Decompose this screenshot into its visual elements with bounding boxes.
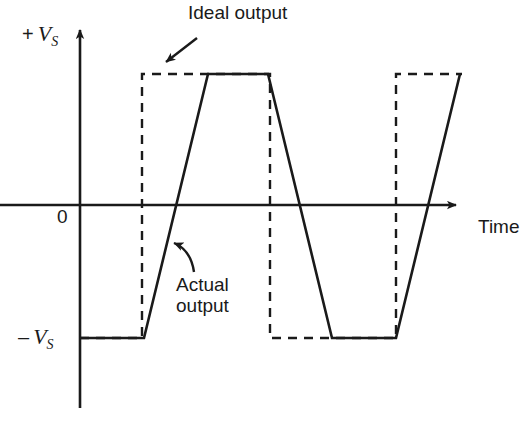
y-axis-positive-symbol: V — [34, 21, 51, 46]
ideal-output-label: Ideal output — [188, 2, 287, 23]
ideal-output-arrow — [166, 38, 197, 62]
actual-output-label-line2: output — [176, 295, 229, 316]
slew-rate-figure: +VS –VS 0 Time Ideal output Actual outpu… — [0, 0, 532, 434]
y-axis-positive-label: +VS — [22, 22, 58, 50]
y-axis-positive-sign: + — [22, 23, 34, 45]
waveform-canvas — [0, 0, 532, 434]
y-axis-positive-subscript: S — [51, 34, 58, 49]
origin-label: 0 — [57, 206, 68, 227]
y-axis-negative-label: –VS — [18, 325, 54, 353]
x-axis-label: Time — [478, 216, 520, 237]
y-axis-negative-symbol: V — [29, 324, 46, 349]
y-axis-negative-sign: – — [18, 326, 29, 348]
actual-output-arrow — [174, 243, 194, 272]
actual-output-label-line1: Actual — [176, 274, 229, 295]
actual-output-label: Actual output — [176, 274, 229, 317]
y-axis-negative-subscript: S — [47, 337, 54, 352]
